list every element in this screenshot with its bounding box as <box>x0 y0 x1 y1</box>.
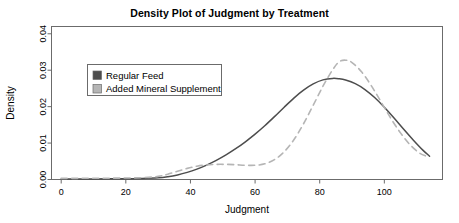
y-axis-title: Density <box>5 86 16 119</box>
legend-swatch <box>93 85 102 94</box>
x-tick-label: 40 <box>185 187 195 197</box>
chart-legend: Regular FeedAdded Mineral Supplement <box>88 65 222 96</box>
legend-label: Regular Feed <box>106 70 164 81</box>
y-tick-label: 0.03 <box>38 61 48 79</box>
y-tick-label: 0.02 <box>38 98 48 116</box>
x-tick-label: 80 <box>315 187 325 197</box>
x-tick-label: 100 <box>377 187 392 197</box>
legend-swatch <box>93 71 102 80</box>
y-tick-label: 0.04 <box>38 25 48 43</box>
chart-container: Density Plot of Judgment by Treatment 0.… <box>0 0 459 223</box>
y-tick-label: 0.01 <box>38 134 48 152</box>
y-axis: 0.000.010.020.030.04 <box>38 25 52 188</box>
legend-label: Added Mineral Supplement <box>106 83 221 94</box>
x-axis: 020406080100 <box>59 180 392 197</box>
y-tick-label: 0.00 <box>38 171 48 189</box>
x-tick-label: 0 <box>59 187 64 197</box>
x-tick-label: 20 <box>121 187 131 197</box>
plot-frame <box>52 27 443 180</box>
x-tick-label: 60 <box>250 187 260 197</box>
x-axis-title: Judgment <box>225 204 269 215</box>
density-plot: 0.000.010.020.030.04 020406080100 Judgme… <box>0 0 459 223</box>
